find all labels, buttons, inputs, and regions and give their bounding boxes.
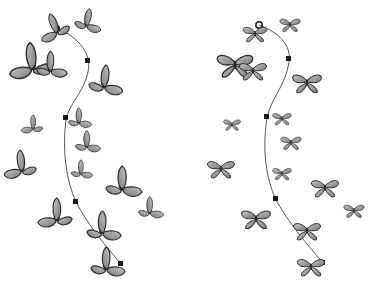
right-panel <box>207 19 364 276</box>
butterfly-icon <box>37 51 68 77</box>
butterfly-icon <box>207 162 234 178</box>
butterfly-icon <box>273 169 292 180</box>
butterfly-icon <box>21 115 43 133</box>
butterfly-icon <box>68 108 91 128</box>
butterfly-icon <box>293 75 322 92</box>
butterfly-artwork <box>0 0 368 287</box>
butterfly-icon <box>106 166 142 196</box>
butterfly-icon <box>273 114 292 125</box>
butterfly-icon <box>71 160 93 178</box>
butterfly-icon <box>242 211 271 228</box>
butterfly-icon <box>88 64 125 96</box>
butterfly-icon <box>75 131 100 152</box>
butterfly-icon <box>74 6 105 33</box>
illustration-canvas <box>0 0 368 287</box>
left-path-node[interactable] <box>85 58 90 63</box>
left-path-node[interactable] <box>73 199 78 204</box>
butterfly-icon <box>34 9 72 44</box>
right-path-node[interactable] <box>273 196 278 201</box>
butterfly-icon <box>87 211 121 240</box>
butterfly-icon <box>2 149 37 179</box>
left-path-end-node[interactable] <box>118 261 123 266</box>
butterfly-icon <box>297 260 324 276</box>
butterfly-icon <box>311 181 338 197</box>
butterfly-icon <box>138 197 163 218</box>
right-path-node[interactable] <box>286 56 291 61</box>
butterfly-icon <box>344 205 364 217</box>
right-path-node[interactable] <box>264 114 269 119</box>
butterfly-icon <box>280 19 300 31</box>
butterfly-icon <box>38 198 72 227</box>
left-panel <box>2 6 163 276</box>
left-path-node[interactable] <box>63 115 68 120</box>
butterfly-icon <box>281 137 301 149</box>
butterfly-icon <box>224 120 241 130</box>
butterfly-icon <box>243 27 267 41</box>
